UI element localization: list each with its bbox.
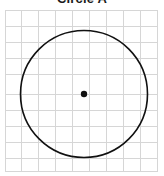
graph-paper-grid [5, 10, 158, 172]
circle-figure: Circle A [0, 0, 164, 176]
grid-vertical-lines [6, 10, 158, 172]
grid-lines [5, 10, 158, 172]
page-title: Circle A [0, 0, 164, 7]
grid-horizontal-lines [5, 11, 158, 172]
